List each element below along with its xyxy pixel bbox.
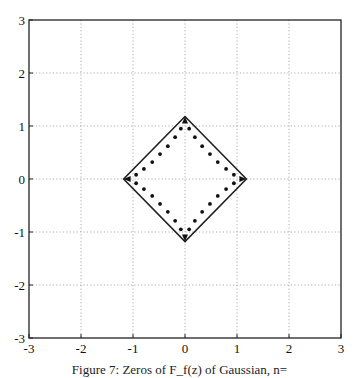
x-tick-label: 0 <box>182 341 189 356</box>
zero-point <box>232 173 236 177</box>
zero-point <box>193 135 197 139</box>
x-tick-label: 1 <box>234 341 241 356</box>
zero-point <box>216 194 220 198</box>
zero-point <box>158 152 162 156</box>
zero-point <box>179 127 183 131</box>
y-tick-label: 1 <box>19 119 26 134</box>
x-axis-ticks: -3-2-10123 <box>24 334 345 356</box>
zero-point <box>187 227 191 231</box>
zero-point <box>216 160 220 164</box>
y-tick-label: -3 <box>14 331 25 346</box>
zero-point <box>173 219 177 223</box>
grid-lines <box>29 20 341 338</box>
zero-point <box>166 210 170 214</box>
x-tick-label: -1 <box>128 341 139 356</box>
y-tick-label: -1 <box>14 225 25 240</box>
zero-point <box>142 167 146 171</box>
y-tick-label: 2 <box>19 66 26 81</box>
zero-point <box>224 167 228 171</box>
zero-point <box>224 187 228 191</box>
x-tick-label: -3 <box>24 341 35 356</box>
zero-point <box>150 160 154 164</box>
zero-point <box>134 173 138 177</box>
zero-point <box>134 181 138 185</box>
zero-point <box>208 202 212 206</box>
zero-point <box>179 227 183 231</box>
zero-point <box>200 210 204 214</box>
y-axis-ticks: -3-2-10123 <box>14 13 33 346</box>
x-tick-label: -2 <box>76 341 87 356</box>
zero-point <box>200 144 204 148</box>
zero-point <box>158 202 162 206</box>
y-tick-label: 3 <box>19 13 26 28</box>
zero-point <box>208 152 212 156</box>
zero-point <box>193 219 197 223</box>
zero-point <box>187 127 191 131</box>
zero-point <box>166 144 170 148</box>
zero-point <box>142 187 146 191</box>
zero-point <box>173 135 177 139</box>
zero-point <box>150 194 154 198</box>
x-tick-label: 2 <box>286 341 293 356</box>
zero-point <box>232 181 236 185</box>
x-tick-label: 3 <box>338 341 345 356</box>
y-tick-label: 0 <box>19 172 26 187</box>
figure-caption: Figure 7: Zeros of F_f(z) of Gaussian, n… <box>0 362 359 378</box>
y-tick-label: -2 <box>14 278 25 293</box>
